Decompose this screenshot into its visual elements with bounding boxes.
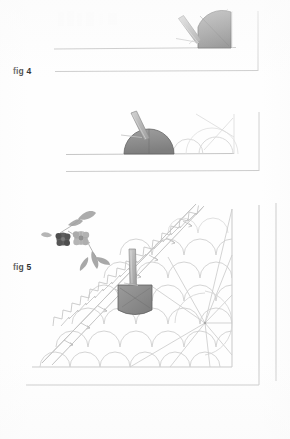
leaf-upper — [68, 211, 96, 226]
outer-border-line — [55, 71, 258, 72]
flower-sprig — [41, 211, 110, 271]
fig5-illustration — [0, 92, 290, 195]
fig7-illustration — [0, 195, 290, 439]
leaf-side — [41, 232, 52, 237]
figure-caption-fig4: fig 4 — [13, 66, 31, 76]
quarter-circle-template — [118, 285, 152, 315]
fig4-illustration — [0, 0, 290, 92]
leaf-lower — [80, 251, 110, 271]
zigzag-braid-band — [42, 204, 204, 365]
needle — [129, 249, 137, 285]
quarter-circle-template — [198, 10, 231, 48]
corner-convergence-point — [204, 322, 207, 325]
blossom-light — [73, 231, 89, 245]
figure-fig6-fig7: fig 6 fig 7 — [0, 195, 290, 439]
pencil-arc-row — [173, 128, 238, 154]
figure-fig5: fig 5 — [0, 92, 290, 195]
scan-ghost-smudge — [58, 11, 117, 26]
blossom-dark — [56, 232, 71, 246]
figure-fig4: fig 4 — [0, 0, 290, 92]
scanned-page: fig 4 — [0, 0, 290, 439]
outer-border-line — [66, 171, 259, 172]
